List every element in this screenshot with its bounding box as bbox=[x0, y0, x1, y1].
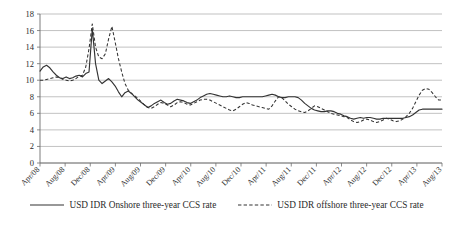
legend-entry-offshore: USD IDR offshore three-year CCS rate bbox=[238, 200, 423, 210]
x-tick-label: Dec/10 bbox=[220, 165, 243, 188]
y-tick-label: 6 bbox=[30, 108, 34, 118]
legend-label-onshore: USD IDR Onshore three-year CCS rate bbox=[69, 200, 216, 210]
chart-legend: USD IDR Onshore three-year CCS rate USD … bbox=[0, 200, 454, 210]
x-tick-label: Aug/12 bbox=[345, 165, 368, 188]
x-tick-label: Dec/08 bbox=[69, 165, 92, 188]
dashed-line-swatch bbox=[238, 201, 272, 209]
x-tick-label: Aug/11 bbox=[270, 165, 293, 188]
x-tick-label: Apr/10 bbox=[170, 165, 192, 187]
y-tick-label: 2 bbox=[30, 141, 34, 151]
y-tick-label: 4 bbox=[30, 125, 35, 135]
chart-figure: 024681012141618 Apr/08Aug/08Dec/08Apr/09… bbox=[0, 0, 454, 229]
y-tick-label: 8 bbox=[30, 92, 34, 102]
x-tick-label: Dec/11 bbox=[295, 165, 317, 187]
legend-label-offshore: USD IDR offshore three-year CCS rate bbox=[277, 200, 423, 210]
x-tick-label: Aug/10 bbox=[194, 165, 217, 188]
x-tick-label: Apr/09 bbox=[94, 165, 116, 187]
line-chart: 024681012141618 Apr/08Aug/08Dec/08Apr/09… bbox=[0, 0, 454, 229]
x-axis-ticks-group: Apr/08Aug/08Dec/08Apr/09Aug/09Dec/09Apr/… bbox=[19, 163, 443, 188]
y-tick-label: 10 bbox=[26, 75, 35, 85]
legend-entry-onshore: USD IDR Onshore three-year CCS rate bbox=[30, 200, 216, 210]
y-tick-label: 16 bbox=[26, 26, 35, 36]
y-axis-ticks-group: 024681012141618 bbox=[26, 9, 41, 168]
gridlines-group bbox=[40, 14, 442, 163]
y-tick-label: 14 bbox=[26, 42, 35, 52]
x-tick-label: Dec/09 bbox=[144, 165, 167, 188]
x-tick-label: Aug/08 bbox=[43, 165, 66, 188]
series-line-onshore bbox=[40, 29, 442, 119]
x-tick-label: Aug/13 bbox=[420, 165, 443, 188]
y-tick-label: 12 bbox=[26, 59, 35, 69]
data-series-group bbox=[40, 24, 442, 123]
y-tick-label: 18 bbox=[26, 9, 35, 19]
series-line-offshore bbox=[40, 24, 442, 123]
x-tick-label: Aug/09 bbox=[119, 165, 142, 188]
x-tick-label: Apr/11 bbox=[245, 165, 267, 187]
x-tick-label: Apr/12 bbox=[321, 165, 343, 187]
solid-line-swatch bbox=[30, 201, 64, 209]
x-tick-label: Apr/08 bbox=[19, 165, 41, 187]
x-tick-label: Apr/13 bbox=[396, 165, 418, 187]
x-tick-label: Dec/12 bbox=[370, 165, 393, 188]
